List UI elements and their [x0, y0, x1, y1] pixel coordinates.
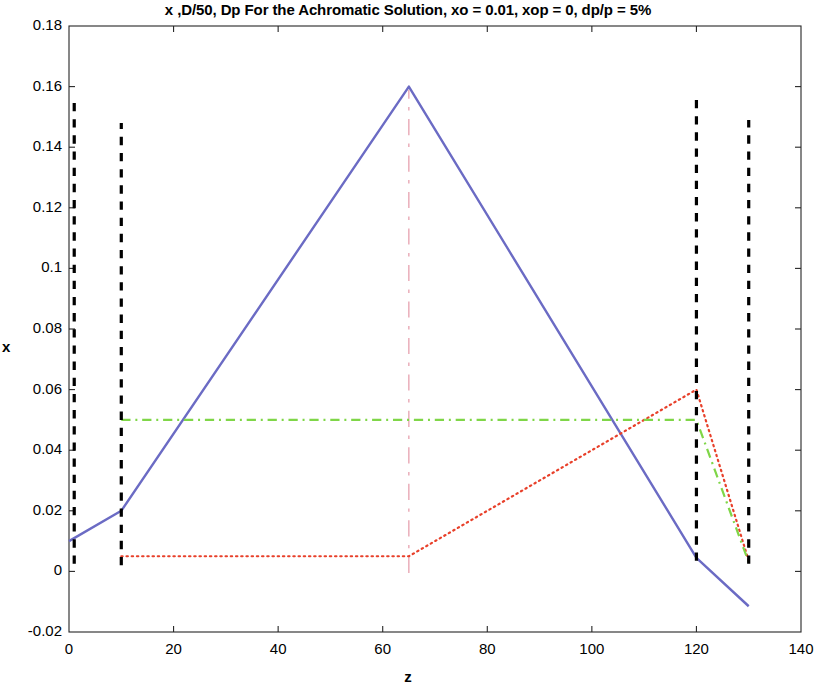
x-tick-label: 100	[552, 640, 632, 657]
plot-area	[0, 0, 816, 694]
x-tick-label: 40	[238, 640, 318, 657]
y-tick-label: 0.08	[0, 319, 62, 336]
x-tick-label: 60	[343, 640, 423, 657]
y-axis-label: x	[2, 338, 10, 355]
y-tick-label: -0.02	[0, 622, 62, 639]
y-tick-label: 0.16	[0, 77, 62, 94]
x-tick-label: 0	[29, 640, 109, 657]
x-axis-label: z	[0, 668, 816, 685]
y-tick-label: 0.12	[0, 198, 62, 215]
y-tick-label: 0.06	[0, 380, 62, 397]
y-tick-label: 0.14	[0, 137, 62, 154]
y-tick-label: 0.18	[0, 16, 62, 33]
x-tick-label: 140	[761, 640, 816, 657]
x-tick-label: 20	[134, 640, 214, 657]
figure-canvas: x ,D/50, Dp For the Achromatic Solution,…	[0, 0, 816, 694]
x-tick-label: 80	[447, 640, 527, 657]
y-tick-label: 0	[0, 561, 62, 578]
series-dp	[121, 390, 748, 561]
y-tick-label: 0.1	[0, 258, 62, 275]
y-tick-label: 0.04	[0, 440, 62, 457]
x-tick-label: 120	[656, 640, 736, 657]
y-tick-label: 0.02	[0, 501, 62, 518]
